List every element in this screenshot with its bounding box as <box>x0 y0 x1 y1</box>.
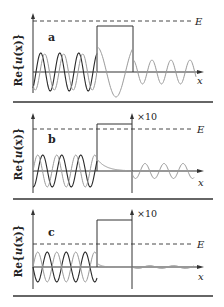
right-y-axis-arrow-icon <box>130 113 134 119</box>
y-axis-label: Re{u(x)} <box>12 128 24 181</box>
energy-label: E <box>194 16 203 27</box>
potential-barrier <box>97 220 132 267</box>
panel-a: Re{u(x)} E x a <box>12 13 204 97</box>
x-axis-arrow-icon <box>197 265 204 269</box>
energy-label: E <box>196 239 205 250</box>
x-axis-label: x <box>197 75 203 86</box>
panel-c: Re{u(x)} ×10 E x c <box>12 208 205 289</box>
right-y-axis-arrow-icon <box>130 209 134 215</box>
energy-label: E <box>196 124 205 135</box>
x-axis-arrow-icon <box>197 169 204 173</box>
scale-label: ×10 <box>137 208 157 219</box>
panel-b: Re{u(x)} ×10 E x b <box>12 111 205 193</box>
x-axis-arrow-icon <box>197 70 204 74</box>
panel-letter: a <box>48 31 55 44</box>
x-axis-label: x <box>198 271 204 282</box>
barrier-figure: Re{u(x)} E x a Re{u(x)} ×10 E x b Re{u(x… <box>0 0 224 307</box>
x-axis-label: x <box>198 177 204 188</box>
scale-label: ×10 <box>137 111 157 122</box>
y-axis-label: Re{u(x)} <box>12 34 24 87</box>
y-axis-arrow-icon <box>31 13 35 19</box>
y-axis-arrow-icon <box>31 113 35 119</box>
y-axis-arrow-icon <box>31 209 35 215</box>
panel-letter: b <box>48 133 56 146</box>
y-axis-label: Re{u(x)} <box>12 225 24 278</box>
panel-letter: c <box>48 226 55 239</box>
